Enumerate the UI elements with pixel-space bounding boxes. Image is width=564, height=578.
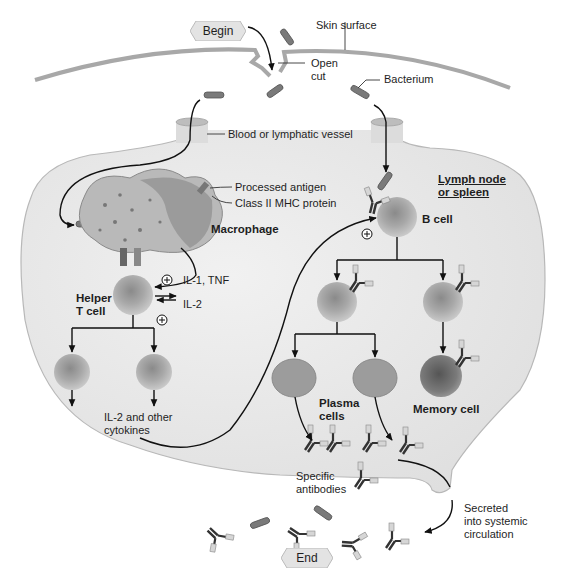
bacterium-label: Bacterium [384,73,434,86]
memory-cell [420,355,462,397]
helper-t-cell-label-2: T cell [76,305,105,318]
begin-marker: Begin [190,21,246,41]
lymph-node-label-2: or spleen [438,186,489,199]
blood-vessel-right [371,118,403,143]
end-marker: End [281,548,333,568]
blood-vessel-left [176,118,208,143]
processed-antigen-label: Processed antigen [235,181,326,194]
secreted-label-2: into systemic [464,515,528,528]
diagram-canvas [0,0,564,578]
helper-t-cell [113,275,153,315]
il1-tnf-label: IL-1, TNF [183,274,229,287]
t-cell-daughter-left [54,354,90,390]
end-label: End [296,551,317,565]
plasma-cell-left [272,359,316,397]
open-cut-label-1: Open [311,57,338,70]
il2-label: IL-2 [183,298,202,311]
secreted-label-3: circulation [464,528,514,541]
skin-surface-label: Skin surface [316,19,377,32]
begin-label: Begin [203,24,234,38]
vessel-label: Blood or lymphatic vessel [228,128,353,141]
plasma-cells-label-2: cells [319,410,345,423]
antibodies-label-1: Specific [296,470,335,483]
plasma-cells-label-1: Plasma [319,397,359,410]
cytokines-label-1: IL-2 and other [104,411,173,424]
open-cut-label-2: cut [311,70,326,83]
plasma-cell-right [353,359,397,397]
memory-cell-label: Memory cell [413,403,479,416]
b-cell-label: B cell [422,213,453,226]
mhc-protein-label: Class II MHC protein [235,197,336,210]
antibodies-label-2: antibodies [296,483,346,496]
macrophage-label: Macrophage [211,223,279,236]
lymph-node-label-1: Lymph node [438,173,506,186]
cytokines-label-2: cytokines [104,424,150,437]
helper-t-cell-label-1: Helper [76,292,112,305]
t-cell-daughter-right [136,354,172,390]
secreted-label-1: Secreted [464,502,508,515]
